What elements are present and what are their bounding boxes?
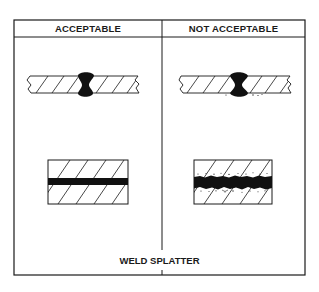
table-frame bbox=[14, 20, 305, 275]
figure-caption: WELD SPLATTER bbox=[14, 254, 305, 268]
not-acceptable-weld-seam bbox=[186, 160, 288, 204]
acceptable-butt-weld bbox=[27, 72, 139, 97]
weld-splatter-diagram: ACCEPTABLE NOT ACCEPTABLE WELD SPLATTER bbox=[0, 0, 319, 292]
acceptable-weld-seam bbox=[40, 160, 160, 204]
not-acceptable-butt-weld bbox=[179, 72, 292, 97]
diagram-drawing bbox=[0, 0, 319, 292]
column-header-acceptable: ACCEPTABLE bbox=[14, 21, 162, 37]
column-header-not-acceptable: NOT ACCEPTABLE bbox=[162, 21, 305, 37]
